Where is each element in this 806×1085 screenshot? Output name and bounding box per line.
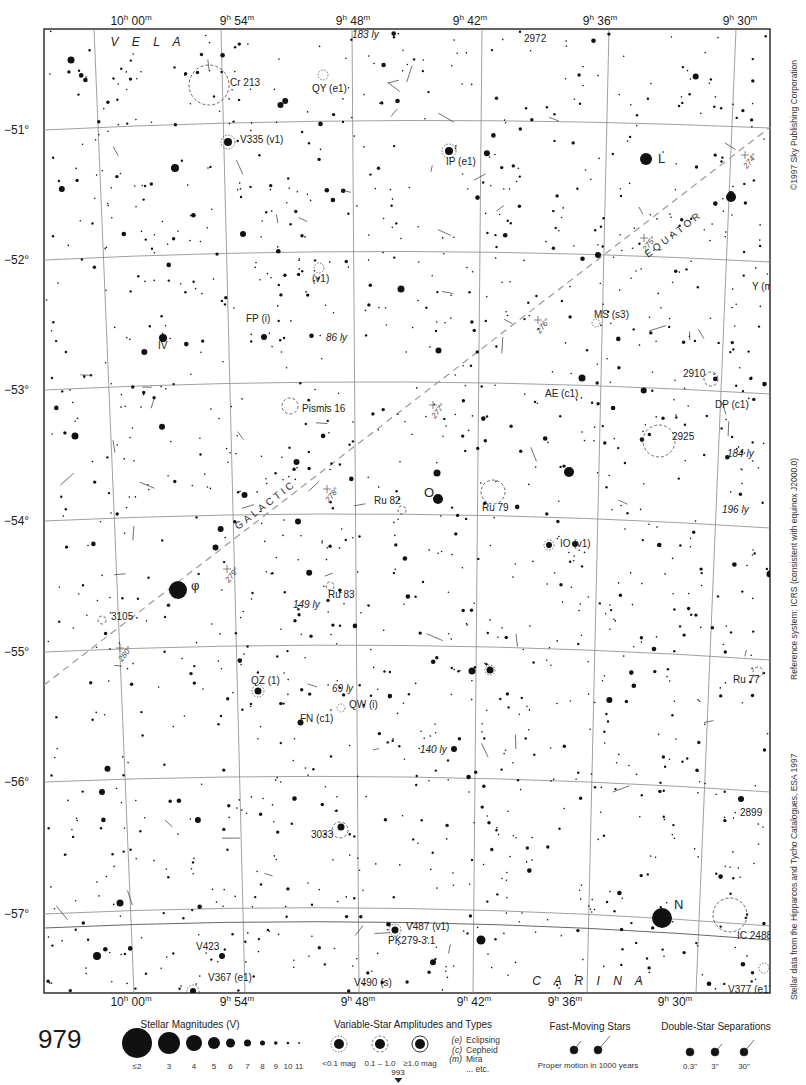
svg-text:2899: 2899 (740, 807, 763, 818)
legend-magnitude-label: 5 (212, 1062, 216, 1071)
svg-text:C A R I N A: C A R I N A (532, 974, 648, 988)
ra-label-top: 10h 00m (110, 13, 151, 28)
star-chart: 274°275°276°277°278°279°280° 183 ly2972C… (0, 0, 806, 1085)
legend-variable-type: (c)Cepheid (436, 1045, 498, 1055)
legend-amp-low: <0.1 mag (322, 1059, 356, 1068)
ra-label-bottom: 9h 48m (341, 994, 376, 1009)
page-number: 979 (38, 1024, 81, 1055)
svg-text:φ: φ (191, 578, 199, 593)
legend-magnitude-label: 3 (167, 1062, 171, 1071)
svg-text:Pismis 16: Pismis 16 (302, 403, 346, 414)
svg-text:DP (c1): DP (c1) (715, 399, 749, 410)
legend-double-sep-0: 0.3" (683, 1062, 697, 1071)
legend-magnitude-label: 6 (228, 1062, 232, 1071)
legend-magnitude-label: ≤2 (133, 1062, 142, 1071)
ra-label-bottom: 9h 36m (548, 994, 583, 1009)
dec-label: −53° (4, 383, 29, 397)
svg-text:Cr 213: Cr 213 (230, 77, 260, 88)
svg-text:IP (e1): IP (e1) (446, 156, 476, 167)
ra-label-bottom: 9h 30m (658, 994, 693, 1009)
ra-label-bottom: 10h 00m (110, 994, 151, 1009)
dec-label: −56° (4, 775, 29, 789)
svg-text:QW (i): QW (i) (349, 699, 378, 710)
svg-text:Ru 82: Ru 82 (374, 495, 401, 506)
svg-text:N: N (674, 897, 683, 912)
dec-label: −51° (4, 123, 29, 137)
legend-variable-type: ... etc. (436, 1064, 489, 1074)
legend-double-sep-2: 30" (738, 1062, 750, 1071)
ra-label-top: 9h 36m (583, 13, 618, 28)
legend-magnitude-label: 8 (260, 1062, 264, 1071)
svg-text:Ru 77: Ru 77 (733, 674, 760, 685)
svg-text:MS (s3): MS (s3) (594, 309, 629, 320)
dec-label: −52° (4, 253, 29, 267)
svg-text:184 ly: 184 ly (727, 448, 755, 459)
legend-variable-type: (e)Eclipsing (436, 1035, 500, 1045)
legend-magnitude-label: 10 (283, 1062, 292, 1071)
chart-frame (44, 29, 770, 993)
ra-label-top: 9h 42m (453, 13, 488, 28)
svg-text:IO (v1): IO (v1) (560, 538, 591, 549)
svg-text:V367 (e1): V367 (e1) (208, 972, 252, 983)
svg-text:IC 2488: IC 2488 (737, 930, 772, 941)
ra-label-top: 9h 48m (336, 13, 371, 28)
svg-text:2910: 2910 (683, 368, 706, 379)
legend-variables-title: Variable-Star Amplitudes and Types (334, 1019, 492, 1030)
legend-magnitudes-title: Stellar Magnitudes (V) (141, 1019, 240, 1030)
legend-amp-mid: 0.1 – 1.0 (364, 1059, 395, 1068)
legend-fast-moving-title: Fast-Moving Stars (549, 1021, 630, 1032)
ra-label-top: 9h 54m (220, 13, 255, 28)
legend-magnitude-label: 11 (295, 1062, 303, 1071)
ra-label-top: 9h 30m (723, 13, 758, 28)
svg-text:FN (c1): FN (c1) (300, 713, 333, 724)
svg-text:Y (m3): Y (m3) (752, 281, 782, 292)
svg-text:140 ly: 140 ly (420, 744, 448, 755)
svg-text:V423: V423 (196, 941, 220, 952)
svg-text:PK279-3.1: PK279-3.1 (388, 935, 436, 946)
ra-label-bottom: 9h 42m (457, 994, 492, 1009)
dec-label: −54° (4, 514, 29, 528)
legend-magnitude-label: 9 (274, 1062, 278, 1071)
legend-magnitude-label: 7 (245, 1062, 249, 1071)
legend-variable-dots (331, 1036, 428, 1052)
svg-text:Ru 83: Ru 83 (328, 589, 355, 600)
svg-text:2972: 2972 (524, 33, 547, 44)
svg-text:V490 (s): V490 (s) (354, 977, 392, 988)
legend-doubles-title: Double-Star Separations (661, 1021, 771, 1032)
svg-text:(v1): (v1) (312, 273, 329, 284)
adjacent-page-number[interactable]: 993 (391, 1068, 404, 1077)
svg-text:2925: 2925 (672, 431, 695, 442)
chevron-down-icon[interactable] (394, 1078, 402, 1083)
svg-text:V335 (v1): V335 (v1) (240, 134, 283, 145)
svg-text:V487 (v1): V487 (v1) (406, 921, 449, 932)
svg-text:IV: IV (158, 340, 168, 351)
svg-text:196 ly: 196 ly (722, 504, 750, 515)
adjacent-chart-link[interactable]: 993 (391, 1068, 404, 1083)
data-source-note: Stellar data from the Hipparcos and Tych… (789, 754, 799, 1001)
svg-text:86 ly: 86 ly (326, 332, 348, 343)
svg-text:149 ly: 149 ly (293, 599, 321, 610)
svg-text:69 ly: 69 ly (332, 683, 354, 694)
svg-text:L: L (658, 151, 665, 166)
svg-text:183 ly: 183 ly (352, 29, 380, 40)
svg-text:V E L A: V E L A (110, 35, 185, 49)
svg-text:AE (c1): AE (c1) (545, 388, 578, 399)
svg-text:O: O (424, 485, 434, 500)
legend-amp-high: ≥1.0 mag (403, 1059, 436, 1068)
legend-double-star-dots (686, 1040, 754, 1056)
legend-variable-type: (m)Mira (436, 1054, 483, 1064)
svg-text:3105: 3105 (111, 611, 134, 622)
dec-label: −57° (4, 907, 29, 921)
svg-text:3033: 3033 (311, 829, 334, 840)
dec-label: −55° (4, 645, 29, 659)
copyright-note: ©1997 Sky Publishing Corporation (789, 60, 799, 190)
svg-text:FP (i): FP (i) (246, 313, 270, 324)
legend-magnitude-dots (122, 1028, 300, 1058)
legend-magnitude-label: 4 (192, 1062, 196, 1071)
ra-label-bottom: 9h 54m (220, 994, 255, 1009)
reference-system-note: Reference system: ICRS (consistent with … (789, 458, 799, 680)
legend-fast-moving-dots (570, 1036, 610, 1054)
svg-text:QY (e1): QY (e1) (312, 83, 347, 94)
svg-text:Ru 79: Ru 79 (482, 502, 509, 513)
legend-fast-moving-caption: Proper motion in 1000 years (538, 1061, 639, 1070)
